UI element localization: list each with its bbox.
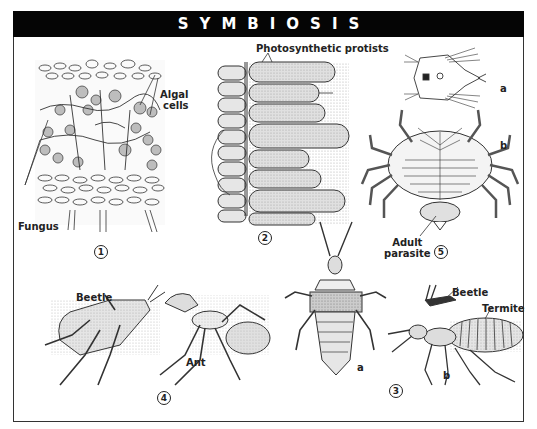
label-beetle-4: Beetle	[76, 292, 112, 303]
label-fungus: Fungus	[18, 221, 59, 232]
beetle-termite-illustration	[388, 285, 523, 385]
label-photosynthetic-protists: Photosynthetic protists	[256, 43, 389, 54]
label-termite: Termite	[482, 303, 525, 314]
lichen-section-illustration	[25, 60, 165, 232]
crab-host-illustration	[362, 110, 518, 236]
panel-number-4: 4	[157, 391, 171, 405]
panel-number-5: 5	[434, 245, 448, 259]
myrmecophile-beetle-illustration	[285, 222, 386, 375]
parasite-larva-illustration	[404, 48, 486, 108]
protist-tissue-illustration	[212, 53, 349, 225]
label-3b: b	[443, 370, 450, 381]
label-3a: a	[357, 362, 364, 373]
label-5b: b	[500, 140, 507, 151]
panel-number-3: 3	[389, 384, 403, 398]
label-beetle-3: Beetle	[452, 287, 488, 298]
label-ant: Ant	[186, 357, 206, 368]
panel-number-2: 2	[258, 231, 272, 245]
illustrations	[0, 0, 537, 429]
label-algal-cells: Algal cells	[160, 89, 189, 111]
panel-number-1: 1	[94, 245, 108, 259]
label-5a: a	[500, 83, 507, 94]
label-adult-parasite: Adult parasite	[384, 237, 431, 259]
